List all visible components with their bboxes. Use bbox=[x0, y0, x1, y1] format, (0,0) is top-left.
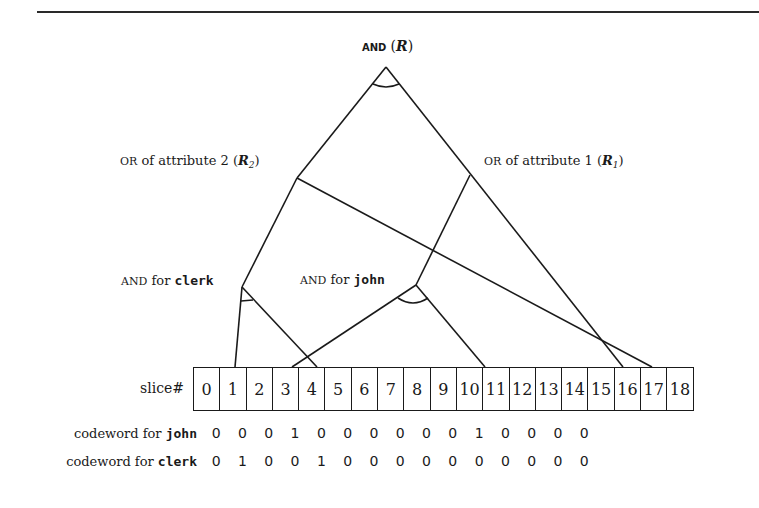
bit: 0 bbox=[203, 453, 229, 469]
slice-cell: 5 bbox=[325, 368, 351, 410]
slice-cell: 9 bbox=[431, 368, 457, 410]
slice-number-label: slice# bbox=[140, 380, 184, 396]
slice-cell: 8 bbox=[404, 368, 430, 410]
bit: 0 bbox=[387, 453, 413, 469]
bit: 0 bbox=[361, 453, 387, 469]
slice-cell: 17 bbox=[641, 368, 667, 410]
slice-cell: 3 bbox=[273, 368, 299, 410]
slice-cell: 1 bbox=[220, 368, 246, 410]
and-john-label: AND for john bbox=[300, 272, 385, 289]
bit: 0 bbox=[229, 425, 255, 441]
slice-cell: 13 bbox=[536, 368, 562, 410]
slice-cell: 12 bbox=[510, 368, 536, 410]
bit: 0 bbox=[492, 425, 518, 441]
slice-cell: 11 bbox=[483, 368, 509, 410]
slice-cell: 10 bbox=[457, 368, 483, 410]
codeword-bits: 0 0 0 1 0 0 0 0 0 0 1 0 0 0 0 bbox=[203, 425, 597, 441]
or-attribute-2-label: OR of attribute 2 (R2) bbox=[120, 153, 260, 173]
bit: 0 bbox=[413, 453, 439, 469]
codeword-label: codeword for john bbox=[45, 426, 203, 441]
bit: 0 bbox=[361, 425, 387, 441]
slice-cell: 4 bbox=[299, 368, 325, 410]
bit: 0 bbox=[387, 425, 413, 441]
slice-array: 0 1 2 3 4 5 6 7 8 9 10 11 12 13 14 15 16… bbox=[193, 367, 694, 411]
slice-cell: 0 bbox=[194, 368, 220, 410]
and-clerk-label: AND for clerk bbox=[121, 273, 214, 290]
bit: 0 bbox=[519, 453, 545, 469]
bit: 0 bbox=[334, 453, 360, 469]
bit: 0 bbox=[519, 425, 545, 441]
slice-cell: 18 bbox=[667, 368, 693, 410]
slice-cell: 14 bbox=[562, 368, 588, 410]
slice-cell: 15 bbox=[588, 368, 614, 410]
codeword-label: codeword for clerk bbox=[45, 454, 203, 469]
root-node-label: AND (R) bbox=[362, 38, 413, 56]
bit: 0 bbox=[571, 425, 597, 441]
bit: 0 bbox=[413, 425, 439, 441]
slice-cell: 6 bbox=[352, 368, 378, 410]
bit: 1 bbox=[308, 453, 334, 469]
bit: 0 bbox=[492, 453, 518, 469]
bit: 0 bbox=[571, 453, 597, 469]
codeword-row-john: codeword for john 0 0 0 1 0 0 0 0 0 0 1 … bbox=[45, 425, 597, 441]
bit: 0 bbox=[282, 453, 308, 469]
bit: 0 bbox=[440, 425, 466, 441]
bit: 0 bbox=[545, 453, 571, 469]
slice-cell: 16 bbox=[615, 368, 641, 410]
bit: 0 bbox=[256, 453, 282, 469]
bit: 0 bbox=[466, 453, 492, 469]
bit: 0 bbox=[203, 425, 229, 441]
bit: 0 bbox=[440, 453, 466, 469]
codeword-bits: 0 1 0 0 1 0 0 0 0 0 0 0 0 0 0 bbox=[203, 453, 597, 469]
slice-cell: 2 bbox=[247, 368, 273, 410]
slice-cell: 7 bbox=[378, 368, 404, 410]
bit: 1 bbox=[282, 425, 308, 441]
codeword-row-clerk: codeword for clerk 0 1 0 0 1 0 0 0 0 0 0… bbox=[45, 453, 597, 469]
bit: 1 bbox=[229, 453, 255, 469]
bit: 0 bbox=[334, 425, 360, 441]
bit: 0 bbox=[545, 425, 571, 441]
bit: 0 bbox=[256, 425, 282, 441]
bit: 0 bbox=[308, 425, 334, 441]
or-attribute-1-label: OR of attribute 1 (R1) bbox=[484, 153, 624, 173]
bit: 1 bbox=[466, 425, 492, 441]
